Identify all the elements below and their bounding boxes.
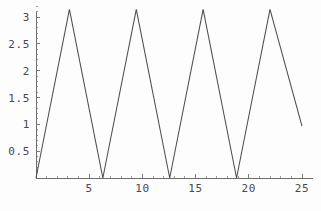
- y-tick-label: 1.5: [8, 92, 30, 105]
- y-tick-label: 1: [23, 118, 30, 131]
- data-series-triangle-wave: [36, 9, 302, 178]
- x-tick-label: 5: [86, 182, 93, 195]
- x-tick-label: 25: [295, 182, 309, 195]
- x-tick-label: 20: [242, 182, 256, 195]
- x-axis-tick-labels: 510152025: [86, 182, 310, 195]
- y-tick-label: 2: [23, 65, 30, 78]
- y-tick-label: 0.5: [8, 145, 30, 158]
- x-tick-label: 15: [188, 182, 202, 195]
- y-tick-label: 2.5: [8, 38, 30, 51]
- x-tick-label: 10: [135, 182, 149, 195]
- y-axis-major-ticks: [36, 17, 40, 151]
- y-axis-tick-labels: 0.511.522.53: [8, 11, 30, 158]
- chart-canvas: 510152025 0.511.522.53: [0, 0, 321, 211]
- y-tick-label: 3: [23, 11, 30, 24]
- triangle-wave-plot: 510152025 0.511.522.53: [0, 0, 321, 211]
